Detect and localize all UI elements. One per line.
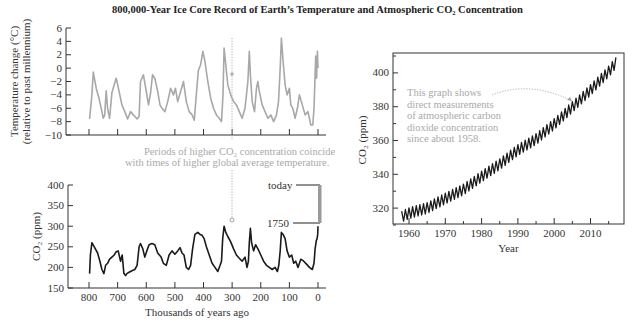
y-tick-label: 380 <box>373 100 390 112</box>
y-tick-label: 150 <box>48 282 65 294</box>
x-tick-label: 1980 <box>471 227 494 239</box>
temp-connector-dot <box>230 72 234 76</box>
y-tick-label: 200 <box>48 261 65 273</box>
x-tick-label: 1990 <box>507 227 530 239</box>
y-axis-label: Temperature change (°C)(relative to past… <box>8 18 33 144</box>
x-tick-label: 1960 <box>398 227 421 239</box>
y-tick-label: −8 <box>50 115 62 127</box>
industrial-rise-bar <box>318 185 322 223</box>
y-tick-label: −4 <box>50 88 62 100</box>
y-tick-label: 2 <box>57 48 63 60</box>
data-line <box>90 226 318 275</box>
mauna-loa-note-line: dioxide concentration <box>407 122 499 133</box>
x-tick-label: 0 <box>315 291 321 303</box>
x-tick-label: 800 <box>81 291 98 303</box>
y-tick-label: 340 <box>373 168 390 180</box>
today-label: today <box>268 179 293 191</box>
x-axis-label: Thousands of years ago <box>145 306 250 318</box>
y-tick-label: 250 <box>48 240 65 252</box>
x-axis-label: Year <box>498 242 519 254</box>
coincide-text-2: with times of higher global average temp… <box>125 157 329 168</box>
y-tick-label: 4 <box>57 35 63 47</box>
y-tick-label: 6 <box>57 22 63 34</box>
y-tick-label: 0 <box>57 62 63 74</box>
y-axis-label: CO₂ (ppm) <box>30 212 43 261</box>
coincide-text-1: Periods of higher CO₂ concentration coin… <box>144 146 335 157</box>
mauna-loa-note-line: direct measurements <box>407 99 494 110</box>
x-tick-label: 700 <box>109 291 126 303</box>
figure-canvas: 6420−2−4−6−8−10Temperature change (°C)(r… <box>0 0 635 325</box>
label-1750: 1750 <box>267 217 290 229</box>
x-tick-label: 300 <box>224 291 241 303</box>
y-tick-label: 400 <box>373 66 390 78</box>
mauna-loa-note-arrow <box>492 89 572 101</box>
x-tick-label: 500 <box>167 291 184 303</box>
mauna-loa-note-line: This graph shows <box>407 87 481 98</box>
temperature-chart: 6420−2−4−6−8−10Temperature change (°C)(r… <box>8 18 326 144</box>
x-tick-label: 2000 <box>543 227 566 239</box>
y-tick-label: 350 <box>48 199 65 211</box>
mauna-loa-note-line: of atmospheric carbon <box>407 110 502 121</box>
y-tick-label: −2 <box>50 75 62 87</box>
y-tick-label: 400 <box>48 179 65 191</box>
x-tick-label: 600 <box>138 291 155 303</box>
y-tick-label: 320 <box>373 202 390 214</box>
ice-core-co2-chart: 4003503002502001508007006005004003002001… <box>30 179 326 319</box>
arrowhead-icon <box>567 97 572 101</box>
mauna-loa-co2-chart: 320340360380400196019701980199020002010Y… <box>356 53 624 254</box>
x-tick-label: 400 <box>195 291 212 303</box>
mauna-loa-note-line: since about 1958. <box>407 133 481 144</box>
annotations: Periods of higher CO₂ concentration coin… <box>125 38 572 229</box>
x-tick-label: 200 <box>253 291 270 303</box>
y-tick-label: −6 <box>50 102 62 114</box>
x-tick-label: 1970 <box>434 227 457 239</box>
y-tick-label: 360 <box>373 134 390 146</box>
y-tick-label: −10 <box>45 129 63 141</box>
x-tick-label: 2010 <box>580 227 603 239</box>
x-tick-label: 100 <box>281 291 298 303</box>
mauna-loa-note: This graph showsdirect measurementsof at… <box>407 87 502 144</box>
y-tick-label: 300 <box>48 220 65 232</box>
data-line <box>90 38 318 125</box>
y-axis-label: CO₂ (ppm) <box>356 115 369 164</box>
